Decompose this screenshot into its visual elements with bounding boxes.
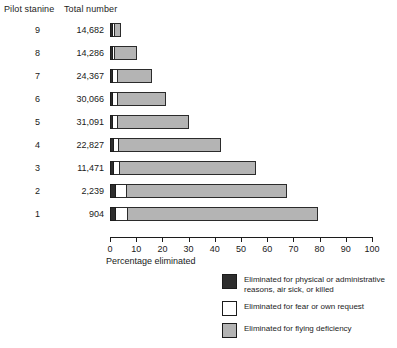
legend-item: Eliminated for fear or own request: [222, 301, 394, 316]
bar-segment-flying: [120, 161, 256, 175]
x-axis-tick-label: 20: [157, 244, 167, 254]
x-axis-tick-label: 70: [288, 244, 298, 254]
stacked-bar: [110, 161, 256, 175]
x-axis-tick-label: 50: [236, 244, 246, 254]
x-axis-tick-label: 30: [184, 244, 194, 254]
row-stanine-label: 2: [0, 186, 40, 196]
bar-segment-flying: [127, 184, 287, 198]
legend-swatch-flying: [222, 323, 237, 338]
stacked-bar: [110, 207, 318, 221]
legend-label-physical: Eliminated for physical or administrativ…: [244, 274, 394, 294]
bar-segment-flying: [128, 207, 319, 221]
column-header-total-number: Total number: [64, 4, 117, 14]
x-axis-tick-label: 40: [210, 244, 220, 254]
stacked-bar-chart: Pilot stanine Total number 914,682814,28…: [0, 0, 397, 348]
x-axis-tick: [293, 237, 294, 242]
x-axis-label: Percentage eliminated: [106, 256, 196, 266]
x-axis-tick-label: 0: [107, 244, 112, 254]
x-axis-tick-label: 90: [341, 244, 351, 254]
stacked-bar: [110, 184, 287, 198]
x-axis-tick: [372, 237, 373, 242]
x-axis-tick: [320, 237, 321, 242]
legend-swatch-fear: [222, 301, 237, 316]
row-total-number: 30,066: [48, 94, 104, 104]
stacked-bar: [110, 138, 221, 152]
x-axis: 0102030405060708090100: [110, 237, 372, 238]
x-axis-tick: [110, 237, 111, 242]
x-axis-tick: [189, 237, 190, 242]
row-stanine-label: 5: [0, 117, 40, 127]
x-axis-tick-label: 60: [262, 244, 272, 254]
bar-segment-flying: [115, 23, 121, 37]
x-axis-tick: [346, 237, 347, 242]
row-total-number: 2,239: [48, 186, 104, 196]
row-total-number: 14,682: [48, 25, 104, 35]
x-axis-tick-label: 100: [364, 244, 379, 254]
row-stanine-label: 3: [0, 163, 40, 173]
row-total-number: 11,471: [48, 163, 104, 173]
legend-item: Eliminated for physical or administrativ…: [222, 274, 394, 294]
bar-segment-flying: [118, 92, 166, 106]
x-axis-tick: [267, 237, 268, 242]
bar-segment-flying: [118, 115, 189, 129]
column-header-pilot-stanine: Pilot stanine: [4, 4, 54, 14]
x-axis-tick: [215, 237, 216, 242]
legend-item: Eliminated for flying deficiency: [222, 323, 394, 338]
bar-segment-flying: [119, 138, 221, 152]
row-total-number: 14,286: [48, 48, 104, 58]
x-axis-tick: [162, 237, 163, 242]
x-axis-tick: [136, 237, 137, 242]
stacked-bar: [110, 46, 137, 60]
bar-segment-flying: [118, 69, 153, 83]
row-stanine-label: 8: [0, 48, 40, 58]
row-stanine-label: 6: [0, 94, 40, 104]
bar-segment-fear: [116, 184, 127, 198]
row-stanine-label: 1: [0, 209, 40, 219]
stacked-bar: [110, 69, 152, 83]
row-total-number: 24,367: [48, 71, 104, 81]
x-axis-tick: [241, 237, 242, 242]
bar-segment-flying: [115, 46, 137, 60]
row-total-number: 31,091: [48, 117, 104, 127]
chart-legend: Eliminated for physical or administrativ…: [222, 274, 394, 345]
row-stanine-label: 9: [0, 25, 40, 35]
x-axis-tick-label: 80: [315, 244, 325, 254]
row-stanine-label: 4: [0, 140, 40, 150]
stacked-bar: [110, 23, 121, 37]
legend-swatch-physical: [222, 274, 237, 289]
row-total-number: 22,827: [48, 140, 104, 150]
stacked-bar: [110, 92, 166, 106]
legend-label-fear: Eliminated for fear or own request: [244, 301, 364, 312]
row-total-number: 904: [48, 209, 104, 219]
legend-label-flying: Eliminated for flying deficiency: [244, 323, 352, 334]
x-axis-tick-label: 10: [131, 244, 141, 254]
row-stanine-label: 7: [0, 71, 40, 81]
stacked-bar: [110, 115, 189, 129]
bar-segment-fear: [116, 207, 127, 221]
